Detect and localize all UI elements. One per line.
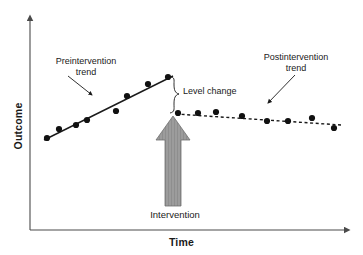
data-point: [56, 126, 62, 132]
level-change-bracket: [170, 77, 179, 113]
interrupted-time-series-figure: Outcome Time Preintervention trend Posti…: [0, 0, 363, 255]
data-point: [264, 118, 270, 124]
data-point: [331, 125, 337, 131]
intervention-block-arrow: [156, 116, 190, 206]
data-point: [84, 117, 90, 123]
preintervention-trend-label: Preintervention trend: [40, 56, 132, 78]
x-axis-title: Time: [0, 236, 363, 248]
level-change-label: Level change: [183, 86, 253, 97]
data-point: [73, 122, 79, 128]
data-point: [44, 135, 50, 141]
postintervention-trend-label: Postintervention trend: [244, 52, 348, 74]
preintervention-leader-line: [68, 76, 92, 95]
postintervention-leader-line: [268, 75, 295, 103]
data-point: [113, 108, 119, 114]
data-point: [213, 109, 219, 115]
data-point: [285, 118, 291, 124]
intervention-label: Intervention: [130, 209, 220, 220]
data-point: [124, 93, 130, 99]
data-point: [309, 115, 315, 121]
data-point: [175, 110, 181, 116]
preintervention-trend-line: [44, 76, 173, 140]
data-point: [145, 81, 151, 87]
postintervention-trend-line: [176, 114, 341, 125]
data-point: [239, 113, 245, 119]
data-point: [195, 110, 201, 116]
y-axis-title: Outcome: [12, 96, 24, 156]
